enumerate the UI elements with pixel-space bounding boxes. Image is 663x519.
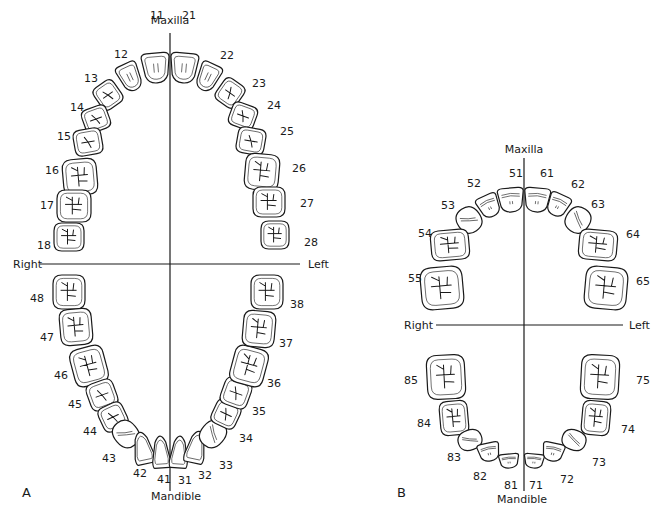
tooth-number-label: 11 [150, 9, 164, 22]
tooth-number-label: 63 [591, 198, 605, 211]
tooth-75 [580, 354, 620, 400]
tooth-number-label: 34 [239, 432, 253, 445]
tooth-number-label: 72 [560, 473, 574, 486]
tooth-outline-icon [419, 265, 465, 311]
permanent-dentition-diagram: MaxillaMandibleRightLeftA111213141516171… [13, 9, 329, 503]
tooth-number-label: 26 [292, 162, 306, 175]
tooth-number-label: 32 [198, 469, 212, 482]
tooth-outline-icon [583, 265, 629, 311]
tooth-number-label: 42 [133, 467, 147, 480]
tooth-number-label: 46 [54, 369, 68, 382]
tooth-number-label: 82 [473, 470, 487, 483]
dental-charts-svg: MaxillaMandibleRightLeftA111213141516171… [0, 0, 663, 519]
right-side-label: Right [13, 258, 43, 271]
tooth-72 [540, 441, 565, 463]
tooth-number-label: 28 [304, 236, 318, 249]
tooth-18 [54, 223, 84, 251]
tooth-82 [476, 441, 501, 463]
tooth-outline-icon [580, 354, 620, 400]
tooth-74 [581, 400, 612, 436]
tooth-number-label: 73 [592, 456, 606, 469]
tooth-number-label: 81 [504, 479, 518, 492]
tooth-26 [243, 153, 280, 192]
tooth-47 [58, 308, 93, 347]
tooth-11 [141, 52, 172, 84]
tooth-outline-icon [426, 354, 466, 400]
tooth-number-label: 83 [447, 451, 461, 464]
tooth-outline-icon [581, 400, 612, 436]
tooth-number-label: 14 [70, 101, 84, 114]
tooth-number-label: 41 [157, 473, 171, 486]
tooth-41 [151, 435, 171, 468]
tooth-number-label: 23 [252, 77, 266, 90]
tooth-number-label: 61 [540, 167, 554, 180]
tooth-number-label: 25 [280, 125, 294, 138]
tooth-number-label: 75 [636, 374, 650, 387]
maxilla-label: Maxilla [505, 143, 544, 156]
tooth-outline-icon [523, 453, 544, 469]
tooth-outline-icon [498, 453, 519, 469]
tooth-number-label: 12 [114, 48, 128, 61]
tooth-number-label: 53 [441, 199, 455, 212]
tooth-number-label: 84 [417, 417, 431, 430]
panel-label: B [397, 485, 406, 500]
tooth-71 [523, 453, 544, 469]
panel-label: A [22, 485, 31, 500]
tooth-17 [57, 190, 91, 222]
tooth-number-label: 16 [45, 164, 59, 177]
tooth-number-label: 44 [83, 425, 97, 438]
tooth-number-label: 15 [57, 130, 71, 143]
tooth-54 [430, 228, 470, 261]
tooth-85 [426, 354, 466, 400]
tooth-number-label: 22 [220, 49, 234, 62]
tooth-outline-icon [58, 308, 93, 347]
tooth-51 [497, 187, 525, 213]
tooth-48 [53, 275, 85, 309]
tooth-number-label: 21 [182, 9, 196, 22]
left-side-label: Left [308, 258, 329, 271]
tooth-outline-icon [430, 228, 470, 261]
tooth-27 [253, 187, 285, 217]
tooth-number-label: 64 [626, 228, 640, 241]
tooth-number-label: 31 [178, 474, 192, 487]
tooth-25 [235, 126, 267, 156]
tooth-number-label: 38 [290, 298, 304, 311]
left-side-label: Left [629, 319, 650, 332]
tooth-outline-icon [540, 441, 565, 463]
tooth-28 [261, 221, 289, 249]
tooth-38 [251, 275, 283, 309]
mandible-label: Mandible [497, 493, 547, 506]
tooth-number-label: 55 [408, 272, 422, 285]
tooth-number-label: 51 [509, 167, 523, 180]
tooth-number-label: 62 [571, 178, 585, 191]
tooth-number-label: 37 [279, 337, 293, 350]
tooth-number-label: 35 [252, 405, 266, 418]
tooth-36 [228, 343, 271, 389]
tooth-number-label: 43 [102, 452, 116, 465]
tooth-number-label: 18 [37, 239, 51, 252]
tooth-number-label: 85 [404, 374, 418, 387]
tooth-outline-icon [497, 187, 525, 213]
tooth-outline-icon [578, 228, 618, 261]
tooth-numbering-figure: MaxillaMandibleRightLeftA111213141516171… [0, 0, 663, 519]
tooth-number-label: 27 [300, 197, 314, 210]
tooth-61 [523, 187, 551, 213]
tooth-outline-icon [241, 310, 276, 349]
tooth-21 [169, 52, 200, 84]
tooth-number-label: 45 [68, 398, 82, 411]
tooth-outline-icon [243, 153, 280, 192]
right-side-label: Right [404, 319, 434, 332]
tooth-number-label: 17 [40, 199, 54, 212]
tooth-outline-icon [523, 187, 551, 213]
tooth-number-label: 71 [529, 479, 543, 492]
tooth-outline-icon [476, 441, 501, 463]
tooth-number-label: 48 [30, 292, 44, 305]
tooth-number-label: 24 [267, 99, 281, 112]
tooth-65 [583, 265, 629, 311]
tooth-number-label: 36 [267, 377, 281, 390]
tooth-number-label: 65 [636, 275, 650, 288]
tooth-number-label: 47 [40, 331, 54, 344]
tooth-64 [578, 228, 618, 261]
tooth-number-label: 13 [84, 72, 98, 85]
tooth-81 [498, 453, 519, 469]
